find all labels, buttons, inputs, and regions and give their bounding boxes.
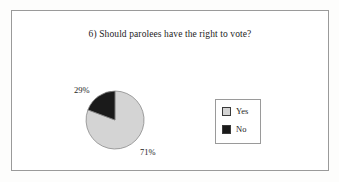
- pie-chart: 29% 71%: [72, 79, 182, 167]
- legend-label-no: No: [236, 124, 246, 134]
- legend-item-no: No: [222, 124, 246, 134]
- pie-svg: [84, 89, 146, 151]
- pie-label-no: 29%: [74, 85, 90, 95]
- legend-swatch-yes-icon: [222, 107, 231, 116]
- figure-frame: 6) Should parolees have the right to vot…: [11, 10, 329, 171]
- legend-item-yes: Yes: [222, 106, 248, 116]
- legend: Yes No: [215, 99, 261, 144]
- legend-swatch-no-icon: [222, 125, 231, 134]
- legend-label-yes: Yes: [236, 106, 248, 116]
- chart-title: 6) Should parolees have the right to vot…: [12, 29, 328, 39]
- pie-label-yes: 71%: [140, 147, 156, 157]
